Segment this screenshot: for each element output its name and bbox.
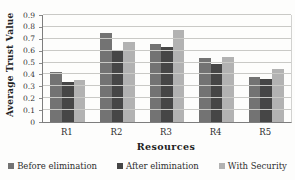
gridline <box>43 109 291 110</box>
bar-group <box>43 15 93 122</box>
bar-group <box>142 15 192 122</box>
bar <box>62 82 74 122</box>
legend-item: After elimination <box>117 161 199 171</box>
bar <box>150 44 162 122</box>
legend-label: After elimination <box>126 161 199 171</box>
bar-group <box>93 15 143 122</box>
bar <box>222 57 234 122</box>
bar-chart-figure: Average Trust Value 00.10.20.30.40.50.60… <box>0 0 295 180</box>
y-tick-mark <box>39 27 42 28</box>
y-tick-label: 0.3 <box>23 83 35 90</box>
legend-item: With Security <box>219 161 287 171</box>
y-tick-label: 0.7 <box>23 35 35 42</box>
bar-group <box>241 15 291 122</box>
legend-label: With Security <box>228 161 287 171</box>
y-tick-label: 0.2 <box>23 95 35 102</box>
y-tick-mark <box>39 98 42 99</box>
y-tick-label: 0.8 <box>23 23 35 30</box>
x-category-label: R1 <box>42 127 92 137</box>
y-tick-label: 0.5 <box>23 59 35 66</box>
legend-item: Before elimination <box>8 161 97 171</box>
y-tick-mark <box>39 110 42 111</box>
legend-label: Before elimination <box>17 161 97 171</box>
gridline <box>43 73 291 74</box>
gridline <box>43 85 291 86</box>
gridline <box>43 62 291 63</box>
y-axis-tick-labels: 00.10.20.30.40.50.60.70.80.9 <box>0 15 40 122</box>
x-category-label: R2 <box>92 127 142 137</box>
bar <box>199 58 211 122</box>
legend: Before eliminationAfter eliminationWith … <box>0 161 295 171</box>
bar-group <box>192 15 242 122</box>
y-tick-label: 0.1 <box>23 107 35 114</box>
y-tick-mark <box>39 63 42 64</box>
gridline <box>43 14 291 15</box>
legend-swatch <box>117 163 123 169</box>
x-axis-category-labels: R1R2R3R4R5 <box>42 127 290 137</box>
y-tick-mark <box>39 51 42 52</box>
x-category-label: R5 <box>240 127 290 137</box>
x-category-label: R4 <box>191 127 241 137</box>
x-axis-title: Resources <box>42 141 290 152</box>
gridline <box>43 38 291 39</box>
y-tick-mark <box>39 39 42 40</box>
gridline <box>43 97 291 98</box>
y-tick-label: 0.9 <box>23 12 35 19</box>
y-tick-label: 0 <box>30 119 35 126</box>
bar <box>249 77 261 122</box>
y-tick-mark <box>39 86 42 87</box>
legend-swatch <box>219 163 225 169</box>
bar <box>74 80 86 122</box>
gridline <box>43 50 291 51</box>
y-tick-mark <box>39 74 42 75</box>
legend-swatch <box>8 163 14 169</box>
x-category-label: R3 <box>141 127 191 137</box>
plot-area <box>42 15 292 123</box>
bar-groups-container <box>43 15 291 122</box>
y-tick-mark <box>39 122 42 123</box>
y-tick-mark <box>39 15 42 16</box>
y-tick-label: 0.4 <box>23 71 35 78</box>
bar <box>272 69 284 123</box>
y-tick-label: 0.6 <box>23 47 35 54</box>
gridline <box>43 26 291 27</box>
